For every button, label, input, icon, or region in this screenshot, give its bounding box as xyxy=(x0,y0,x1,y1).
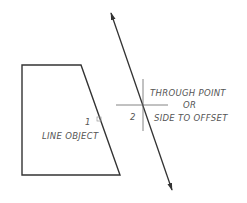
side-to-offset-label: SIDE TO OFFSET xyxy=(154,113,228,123)
diagram-canvas: 1 LINE OBJECT 2 THROUGH POINT OR SIDE TO… xyxy=(0,0,247,203)
offset-line xyxy=(111,13,172,190)
point2-label: 2 xyxy=(130,112,136,122)
line-object-polygon xyxy=(22,65,120,175)
line-object-label: LINE OBJECT xyxy=(42,131,99,141)
or-label: OR xyxy=(183,100,196,110)
point1-label: 1 xyxy=(85,117,91,127)
through-point-label: THROUGH POINT xyxy=(150,88,226,98)
